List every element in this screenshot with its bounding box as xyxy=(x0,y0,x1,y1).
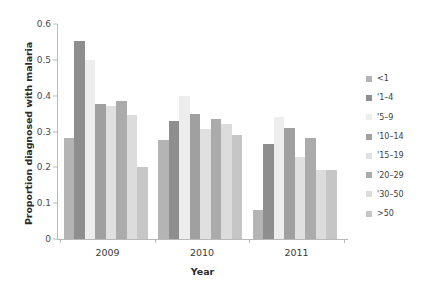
bar xyxy=(211,119,222,239)
y-tick-mark xyxy=(53,167,57,168)
bar xyxy=(190,114,201,239)
legend-label: '15–19 xyxy=(377,151,404,160)
legend-item[interactable]: '30–50 xyxy=(366,185,430,204)
x-tick-mark xyxy=(60,239,61,243)
bar xyxy=(137,167,148,239)
bar xyxy=(253,210,264,239)
bar xyxy=(127,115,138,239)
legend-swatch xyxy=(366,172,372,178)
legend-label: <1 xyxy=(377,74,389,83)
bar xyxy=(116,101,127,239)
bar-group: 2010 xyxy=(158,24,246,239)
legend-label: '1–4 xyxy=(377,93,393,102)
legend-item[interactable]: '10–14 xyxy=(366,127,430,146)
bar-stack xyxy=(253,24,341,239)
legend-item[interactable]: >50 xyxy=(366,204,430,223)
bar xyxy=(169,121,180,239)
x-tick-mark xyxy=(155,239,156,243)
bar xyxy=(158,140,169,239)
y-axis-title: Proportion diagnosed with malaria xyxy=(23,14,34,254)
legend-label: >50 xyxy=(377,209,394,218)
legend-item[interactable]: <1 xyxy=(366,69,430,88)
bar xyxy=(305,138,316,239)
legend-label: '20–29 xyxy=(377,171,404,180)
bar-stack xyxy=(64,24,152,239)
legend-swatch xyxy=(366,134,372,140)
y-tick-mark xyxy=(53,95,57,96)
bar xyxy=(316,170,327,239)
x-tick-mark xyxy=(344,239,345,243)
legend-item[interactable]: '15–19 xyxy=(366,146,430,165)
bar xyxy=(221,124,232,239)
legend-label: '10–14 xyxy=(377,132,404,141)
legend: <1'1–4'5–9'10–14'15–19'20–29'30–50>50 xyxy=(366,69,430,223)
bar xyxy=(64,138,75,239)
bar xyxy=(85,60,96,239)
plot-area: 00.10.20.30.40.50.6 200920102011 xyxy=(57,24,347,239)
legend-item[interactable]: '5–9 xyxy=(366,108,430,127)
y-tick-mark xyxy=(53,239,57,240)
bar-group: 2011 xyxy=(253,24,341,239)
bar xyxy=(284,128,295,239)
bar xyxy=(274,117,285,239)
legend-item[interactable]: '1–4 xyxy=(366,88,430,107)
bar xyxy=(179,96,190,239)
x-axis-title: Year xyxy=(57,266,348,277)
bar xyxy=(200,129,211,239)
legend-swatch xyxy=(366,95,372,101)
x-tick-label: 2009 xyxy=(64,247,152,258)
bar xyxy=(232,135,243,239)
bar xyxy=(263,144,274,239)
legend-swatch xyxy=(366,76,372,82)
y-tick-mark xyxy=(53,131,57,132)
x-tick-mark xyxy=(249,239,250,243)
bar xyxy=(106,106,117,239)
legend-item[interactable]: '20–29 xyxy=(366,165,430,184)
bar-chart-figure: Proportion diagnosed with malaria 00.10.… xyxy=(0,0,430,298)
x-axis-line xyxy=(57,239,348,240)
legend-label: '5–9 xyxy=(377,113,393,122)
x-tick-label: 2010 xyxy=(158,247,246,258)
legend-swatch xyxy=(366,153,372,159)
y-tick-mark xyxy=(53,24,57,25)
bar xyxy=(95,104,106,239)
y-tick-mark xyxy=(53,59,57,60)
y-tick-mark xyxy=(53,203,57,204)
legend-swatch xyxy=(366,191,372,197)
legend-label: '30–50 xyxy=(377,190,404,199)
legend-swatch xyxy=(366,114,372,120)
legend-swatch xyxy=(366,211,372,217)
bar xyxy=(74,41,85,239)
bar xyxy=(295,157,306,239)
x-tick-label: 2011 xyxy=(253,247,341,258)
bar-group: 2009 xyxy=(64,24,152,239)
bar-stack xyxy=(158,24,246,239)
bar xyxy=(326,170,337,239)
